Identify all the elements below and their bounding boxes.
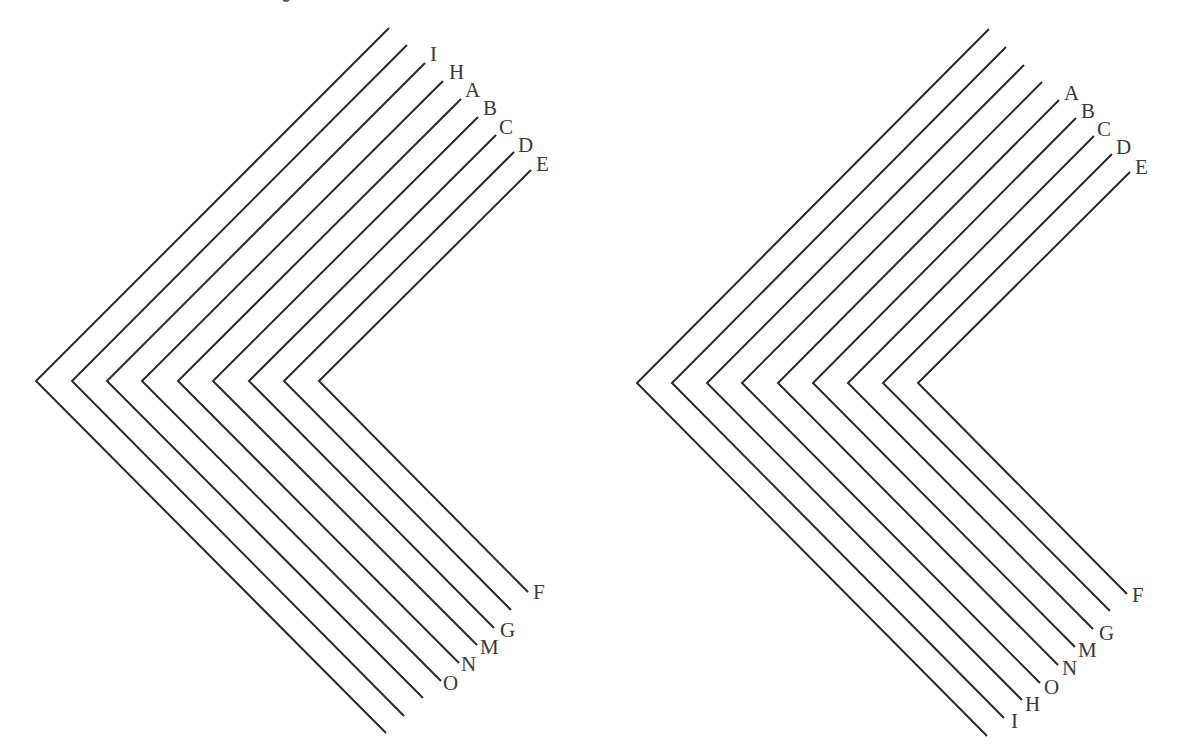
right-label-e: E xyxy=(1135,157,1148,178)
left-label-b: B xyxy=(483,98,497,119)
right-chevron-line-2 xyxy=(672,47,1006,718)
left-panel-chevrons xyxy=(36,28,531,733)
right-panel-chevrons xyxy=(637,29,1130,736)
left-label-f: F xyxy=(533,582,545,603)
right-chevron-line-6 xyxy=(813,118,1076,647)
left-label-o: O xyxy=(443,673,458,694)
left-chevron-line-3 xyxy=(107,63,425,698)
right-label-d: D xyxy=(1116,137,1131,158)
left-label-i: I xyxy=(430,44,437,65)
left-label-n: N xyxy=(461,654,476,675)
left-chevron-line-2 xyxy=(72,45,407,716)
left-label-e: E xyxy=(536,154,549,175)
right-chevron-line-3 xyxy=(707,65,1024,700)
right-label-h: H xyxy=(1025,694,1040,715)
chevron-lines-layer xyxy=(0,0,1177,755)
right-label-f: F xyxy=(1132,585,1144,606)
left-label-d: D xyxy=(518,135,533,156)
right-label-b: B xyxy=(1081,101,1095,122)
right-label-o: O xyxy=(1044,677,1059,698)
left-chevron-line-4 xyxy=(142,81,443,681)
right-chevron-line-4 xyxy=(742,82,1042,683)
left-label-g: G xyxy=(500,620,515,641)
left-chevron-line-6 xyxy=(213,117,478,645)
right-label-c: C xyxy=(1097,119,1111,140)
right-label-i: I xyxy=(1011,711,1018,732)
figure-canvas: I H A B C D E F G M N O A B C D E F G M … xyxy=(0,0,1177,755)
right-chevron-line-9 xyxy=(918,172,1130,594)
left-label-c: C xyxy=(499,117,513,138)
right-label-m: M xyxy=(1078,640,1097,661)
right-label-a: A xyxy=(1064,83,1079,104)
left-label-a: A xyxy=(465,80,480,101)
left-chevron-line-9 xyxy=(319,170,531,592)
left-label-m: M xyxy=(480,637,499,658)
right-label-g: G xyxy=(1099,623,1114,644)
left-label-h: H xyxy=(449,62,464,83)
right-label-n: N xyxy=(1062,658,1077,679)
left-chevron-line-7 xyxy=(249,135,496,628)
